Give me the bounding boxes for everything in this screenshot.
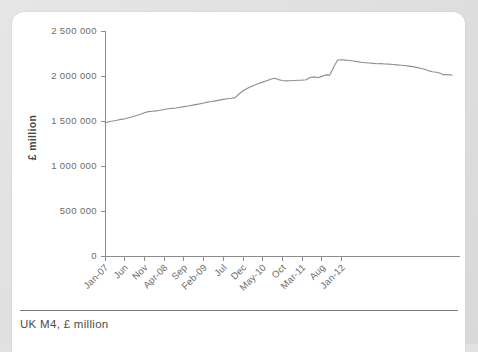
chart-card: 0500 0001 000 0001 500 0002 000 0002 500… [12, 12, 465, 352]
y-axis-tick-label: 500 000 [60, 205, 97, 216]
y-axis-tick-label: 2 500 000 [51, 25, 97, 36]
chart-plot-area: 0500 0001 000 0001 500 0002 000 0002 500… [12, 12, 465, 302]
line-chart: 0500 0001 000 0001 500 0002 000 0002 500… [12, 12, 465, 302]
caption-divider [20, 310, 458, 311]
y-axis-tick-label: 1 500 000 [51, 115, 97, 126]
y-axis-tick-label: 1 000 000 [51, 160, 97, 171]
x-axis-tick-label: Jul [212, 262, 229, 279]
series-line-uk-m4 [105, 60, 452, 123]
y-axis-tick-label: 0 [91, 250, 97, 261]
chart-caption: UK M4, £ million [20, 318, 109, 330]
x-axis-tick-label: Jan-07 [81, 262, 110, 291]
y-axis-tick-label: 2 000 000 [51, 70, 97, 81]
x-axis-tick-label: Jun [111, 262, 130, 281]
y-axis-title: £ million [26, 115, 38, 160]
